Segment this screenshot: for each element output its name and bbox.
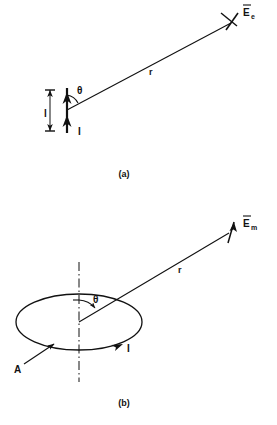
radial-line-r-figure-b [79, 233, 229, 322]
current-label-figure-b: I [127, 343, 130, 354]
area-vector-arrow-figure-b [24, 344, 54, 364]
current-label-figure-a: I [78, 126, 81, 137]
caption-figure-b: (b) [118, 398, 130, 408]
current-direction-arrow-figure-b [111, 344, 123, 351]
field-label-figure-a: E [243, 7, 250, 18]
distance-label-figure-a: r [149, 67, 153, 77]
caption-figure-a: (a) [119, 169, 130, 179]
distance-label-figure-b: r [178, 265, 182, 275]
field-label-figure-b: E [243, 218, 250, 229]
figure-page: E e r θ I l (a) [0, 0, 277, 425]
field-vector-arrow-figure-b [230, 222, 238, 232]
figure-a-group: E e r θ I l (a) [44, 5, 255, 179]
length-label-figure-a: l [44, 108, 47, 119]
area-label-figure-b: A [14, 364, 21, 375]
angle-label-figure-b: θ [93, 294, 98, 305]
field-subscript-figure-b: m [251, 224, 257, 231]
angle-label-figure-a: θ [77, 85, 82, 96]
diagram-canvas: E e r θ I l (a) [0, 0, 277, 425]
field-subscript-figure-a: e [251, 13, 255, 20]
figure-b-group: E m r θ A I (b) [14, 216, 257, 408]
